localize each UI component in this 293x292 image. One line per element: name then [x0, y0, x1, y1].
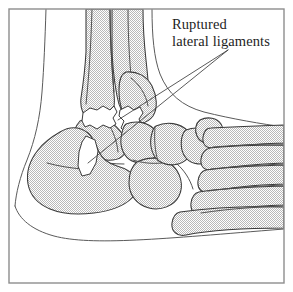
label-line-1: Ruptured — [172, 16, 290, 33]
cuboid-bone — [129, 158, 181, 209]
label-line-2: lateral ligaments — [172, 33, 290, 50]
anatomical-figure: Ruptured lateral ligaments — [0, 0, 293, 292]
tibia-shaft-bone — [81, 9, 115, 123]
gap-upper-posterior — [82, 106, 117, 129]
ruptured-lateral-ligaments-label: Ruptured lateral ligaments — [172, 16, 290, 50]
